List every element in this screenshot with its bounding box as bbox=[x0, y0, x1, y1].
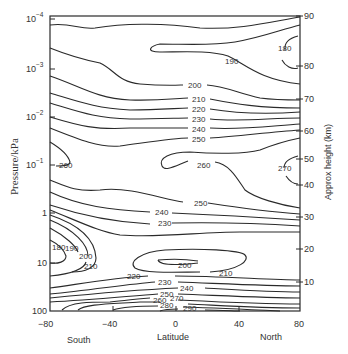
km-tick-70: 70 bbox=[304, 94, 314, 104]
x-label-south: South bbox=[67, 335, 91, 345]
km-tick-90: 90 bbox=[304, 11, 314, 21]
contour-label: 250 bbox=[192, 135, 206, 144]
km-tick-30: 30 bbox=[304, 212, 314, 222]
contour-label: 240 bbox=[180, 284, 194, 293]
x-tick-minus40: −40 bbox=[102, 319, 117, 329]
contour-label: 190 bbox=[65, 244, 79, 253]
contour-label: 210 bbox=[84, 262, 98, 271]
y-tick-1e-1: 10−1 bbox=[26, 157, 44, 170]
contour-label: 260 bbox=[197, 161, 211, 170]
contour-label: 190 bbox=[225, 57, 239, 66]
contour-label: 180 bbox=[52, 243, 66, 252]
contour-label: 200 bbox=[188, 81, 202, 90]
contour-label: 250 bbox=[194, 199, 208, 208]
y-tick-1: 1 bbox=[42, 208, 47, 218]
km-tick-40: 40 bbox=[304, 180, 314, 190]
km-tick-20: 20 bbox=[304, 244, 314, 254]
x-tick-0: 0 bbox=[173, 319, 178, 329]
x-axis: −80 −40 0 40 80 South Latitude North bbox=[38, 319, 304, 345]
x-tick-40: 40 bbox=[234, 319, 244, 329]
y-tick-100: 100 bbox=[32, 306, 47, 316]
contour-label: 240 bbox=[192, 125, 206, 134]
right-y-axis: 90 80 70 60 50 40 30 20 10 Approx height… bbox=[296, 11, 333, 287]
contour-label: 280 bbox=[160, 301, 174, 310]
contour-label: 230 bbox=[158, 278, 172, 287]
contour-label: 210 bbox=[219, 269, 233, 278]
km-tick-50: 50 bbox=[304, 154, 314, 164]
y-tick-10: 10 bbox=[37, 258, 47, 268]
contour-chart: 10−4 10−3 10−2 10−1 1 10 100 Pressure/kP… bbox=[0, 0, 348, 354]
x-axis-title-latitude: Latitude bbox=[157, 332, 189, 342]
km-tick-10: 10 bbox=[304, 277, 314, 287]
contour-label: 290 bbox=[183, 304, 197, 313]
contour-label: 210 bbox=[192, 95, 206, 104]
contour-label: 180 bbox=[278, 44, 292, 53]
y-tick-1e-2: 10−2 bbox=[26, 109, 44, 122]
y-tick-1e-3: 10−3 bbox=[26, 61, 44, 74]
contour-label: 200 bbox=[178, 261, 192, 270]
contour-label: 220 bbox=[127, 272, 141, 281]
y-axis-title-pressure: Pressure/kPa bbox=[8, 138, 20, 195]
km-tick-80: 80 bbox=[304, 61, 314, 71]
y-axis-title-height: Approx height (km) bbox=[323, 124, 333, 200]
contour-label: 260 bbox=[59, 161, 73, 170]
x-label-north: North bbox=[260, 332, 282, 342]
contour-label: 230 bbox=[158, 219, 172, 228]
x-tick-80: 80 bbox=[294, 319, 304, 329]
y-tick-1e-4: 10−4 bbox=[26, 11, 44, 24]
contour-label: 220 bbox=[192, 105, 206, 114]
left-y-axis: 10−4 10−3 10−2 10−1 1 10 100 Pressure/kP… bbox=[8, 11, 55, 316]
contour-label: 200 bbox=[79, 252, 93, 261]
contour-label: 240 bbox=[155, 208, 169, 217]
contour-label: 270 bbox=[278, 164, 292, 173]
x-tick-minus80: −80 bbox=[38, 319, 53, 329]
contour-label: 230 bbox=[192, 115, 206, 124]
km-tick-60: 60 bbox=[304, 126, 314, 136]
